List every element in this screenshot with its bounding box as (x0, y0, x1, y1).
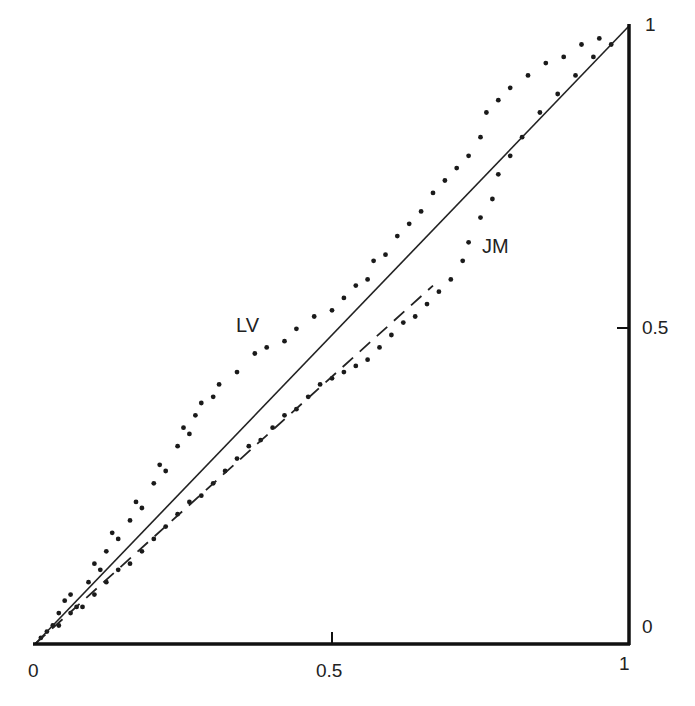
data-point-lv (395, 234, 400, 239)
data-point-lv (294, 326, 299, 331)
data-point-lv (187, 432, 192, 437)
data-point-jm (460, 258, 465, 263)
jm-dashed-line (35, 286, 433, 644)
data-point-jm (490, 197, 495, 202)
data-point-lv (252, 351, 257, 356)
data-point-jm (353, 364, 358, 369)
data-point-jm (555, 92, 560, 97)
data-point-lv (68, 592, 73, 597)
data-point-jm (496, 172, 501, 177)
data-point-jm (377, 345, 382, 350)
data-point-lv (496, 98, 501, 103)
data-point-jm (413, 314, 418, 319)
x-tick-label-0.5: 0.5 (316, 660, 342, 682)
data-point-lv (98, 567, 103, 572)
data-point-lv (484, 110, 489, 115)
data-point-jm (151, 537, 156, 542)
data-point-lv (508, 85, 513, 90)
data-point-lv (199, 401, 204, 406)
data-point-lv (330, 308, 335, 313)
data-point-jm (342, 370, 347, 375)
data-point-jm (508, 153, 513, 158)
data-point-jm (425, 302, 430, 307)
data-point-lv (116, 537, 121, 542)
data-point-lv (597, 36, 602, 41)
data-point-jm (116, 567, 121, 572)
data-point-lv (175, 444, 180, 449)
data-point-lv (181, 425, 186, 430)
data-point-lv (419, 209, 424, 214)
data-point-jm (80, 605, 85, 610)
data-point-lv (157, 462, 162, 467)
data-point-jm (282, 413, 287, 418)
data-point-lv (128, 518, 133, 523)
data-point-jm (478, 215, 483, 220)
data-point-lv (407, 221, 412, 226)
data-point-lv (365, 277, 370, 282)
data-point-jm (235, 456, 240, 461)
data-point-lv (92, 561, 97, 566)
x-tick-label-0: 0 (28, 660, 39, 682)
diagonal-line (35, 26, 629, 644)
data-point-lv (466, 153, 471, 158)
y-tick-label-0.5: 0.5 (642, 317, 668, 339)
data-point-lv (371, 258, 376, 263)
data-point-lv (431, 191, 436, 196)
data-point-jm (318, 382, 323, 387)
data-point-jm (466, 240, 471, 245)
data-point-lv (193, 413, 198, 418)
y-tick-label-0: 0 (642, 616, 653, 638)
data-point-jm (199, 493, 204, 498)
data-point-lv (264, 345, 269, 350)
data-point-lv (383, 252, 388, 257)
data-point-lv (163, 469, 168, 474)
data-point-lv (526, 73, 531, 78)
data-point-jm (246, 444, 251, 449)
x-tick-label-1: 1 (619, 653, 630, 675)
data-point-jm (365, 357, 370, 362)
data-point-lv (62, 598, 67, 603)
data-point-lv (86, 580, 91, 585)
data-point-lv (478, 135, 483, 140)
data-point-lv (312, 314, 317, 319)
scatter-plot (0, 0, 695, 706)
series-label-jm: JM (482, 235, 509, 258)
data-point-lv (110, 530, 115, 535)
data-point-lv (579, 42, 584, 47)
data-point-lv (56, 611, 61, 616)
data-point-jm (448, 277, 453, 282)
data-point-jm (401, 320, 406, 325)
y-tick-label-1: 1 (645, 14, 656, 36)
data-point-jm (538, 110, 543, 115)
data-point-jm (389, 333, 394, 338)
data-point-lv (353, 283, 358, 288)
data-point-jm (437, 289, 442, 294)
data-point-lv (561, 55, 566, 60)
data-point-lv (217, 382, 222, 387)
data-point-lv (454, 166, 459, 171)
data-point-lv (104, 549, 109, 554)
data-point-jm (591, 55, 596, 60)
data-point-lv (282, 339, 287, 344)
data-point-lv (342, 296, 347, 301)
data-point-lv (140, 506, 145, 511)
data-point-jm (128, 561, 133, 566)
series-label-lv: LV (236, 314, 259, 337)
data-point-lv (134, 500, 139, 505)
data-point-lv (151, 481, 156, 486)
data-point-lv (443, 178, 448, 183)
data-point-lv (543, 61, 548, 66)
data-point-jm (573, 73, 578, 78)
data-point-lv (235, 370, 240, 375)
data-point-lv (211, 394, 216, 399)
